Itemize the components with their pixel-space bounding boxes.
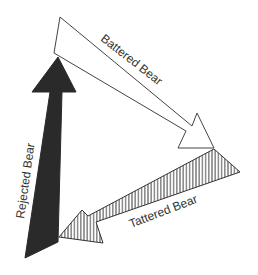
- battered-bear-arrow: [54, 17, 214, 148]
- bear-cycle-diagram: Battered Bear Tattered Bear Rejected Bea…: [0, 0, 258, 275]
- tattered-bear-arrow: [59, 149, 240, 243]
